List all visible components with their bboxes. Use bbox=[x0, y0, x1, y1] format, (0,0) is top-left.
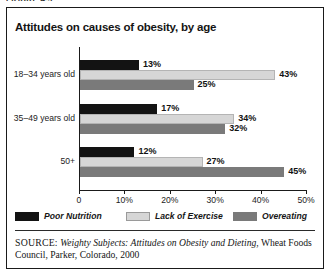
bar[interactable] bbox=[80, 114, 234, 124]
bar-row: 25% bbox=[80, 80, 306, 90]
plot-area: 18–34 years old13%43%25%35–49 years old1… bbox=[79, 47, 306, 190]
bar[interactable] bbox=[80, 124, 225, 134]
legend-swatch-icon bbox=[15, 212, 39, 221]
legend-item[interactable]: Poor Nutrition bbox=[15, 211, 102, 221]
category-label: 18–34 years old bbox=[14, 69, 75, 79]
bar[interactable] bbox=[80, 80, 194, 90]
category-label: 50+ bbox=[60, 156, 75, 166]
bar-value-label: 27% bbox=[207, 156, 225, 166]
source-title: Weighty Subjects: Attitudes on Obesity a… bbox=[60, 237, 256, 248]
bar[interactable] bbox=[80, 104, 157, 114]
bar-row: 13% bbox=[80, 60, 306, 70]
bar-value-label: 12% bbox=[138, 146, 156, 156]
bar-group: 35–49 years old17%34%32% bbox=[80, 104, 306, 134]
x-axis-tick-label: 10% bbox=[116, 195, 133, 205]
bar[interactable] bbox=[80, 70, 275, 80]
chart-title: Attitudes on causes of obesity, by age bbox=[15, 21, 216, 33]
x-axis-tick bbox=[79, 190, 80, 194]
bar-value-label: 32% bbox=[229, 123, 247, 133]
x-axis-tick bbox=[170, 190, 171, 194]
bar-row: 27% bbox=[80, 157, 306, 167]
bar-value-label: 17% bbox=[161, 103, 179, 113]
x-axis-tick-label: 50% bbox=[297, 195, 314, 205]
source-note: SOURCE: Weighty Subjects: Attitudes on O… bbox=[15, 237, 315, 262]
legend-item[interactable]: Lack of Exercise bbox=[126, 211, 223, 221]
bar-group: 18–34 years old13%43%25% bbox=[80, 60, 306, 90]
legend-item[interactable]: Overeating bbox=[233, 211, 307, 221]
bar-row: 32% bbox=[80, 124, 306, 134]
legend-label: Lack of Exercise bbox=[155, 211, 223, 221]
x-axis-tick-label: 30% bbox=[207, 195, 224, 205]
legend-label: Poor Nutrition bbox=[44, 211, 102, 221]
x-axis-tick bbox=[306, 190, 307, 194]
x-axis-tick bbox=[124, 190, 125, 194]
x-axis-line bbox=[79, 190, 306, 191]
bar-row: 12% bbox=[80, 147, 306, 157]
legend-label: Overeating bbox=[262, 211, 307, 221]
figure-page: FIGURE 4.3 Attitudes on causes of obesit… bbox=[0, 0, 332, 277]
bar-value-label: 43% bbox=[279, 69, 297, 79]
category-label: 35–49 years old bbox=[14, 113, 75, 123]
chart-legend: Poor NutritionLack of ExerciseOvereating bbox=[15, 211, 315, 225]
bar-value-label: 25% bbox=[198, 79, 216, 89]
bar-value-label: 45% bbox=[288, 166, 306, 176]
bar-row: 34% bbox=[80, 114, 306, 124]
legend-swatch-icon bbox=[126, 212, 150, 221]
bar-group: 50+12%27%45% bbox=[80, 147, 306, 177]
x-axis-tick-label: 20% bbox=[161, 195, 178, 205]
figure-caption: FIGURE 4.3 bbox=[6, 0, 53, 1]
bar-row: 45% bbox=[80, 167, 306, 177]
x-axis-tick-label: 40% bbox=[252, 195, 269, 205]
bar[interactable] bbox=[80, 60, 139, 70]
bar-value-label: 34% bbox=[238, 113, 256, 123]
x-axis-tick-label: 0 bbox=[77, 195, 82, 205]
legend-source-divider bbox=[15, 230, 315, 231]
x-axis-tick bbox=[261, 190, 262, 194]
bar-row: 43% bbox=[80, 70, 306, 80]
x-axis-tick bbox=[215, 190, 216, 194]
bar-value-label: 13% bbox=[143, 59, 161, 69]
legend-swatch-icon bbox=[233, 212, 257, 221]
bar[interactable] bbox=[80, 157, 203, 167]
bar[interactable] bbox=[80, 147, 134, 157]
bar[interactable] bbox=[80, 167, 284, 177]
bar-row: 17% bbox=[80, 104, 306, 114]
source-label: SOURCE: bbox=[15, 237, 58, 248]
chart-frame: Attitudes on causes of obesity, by age 1… bbox=[6, 7, 324, 269]
